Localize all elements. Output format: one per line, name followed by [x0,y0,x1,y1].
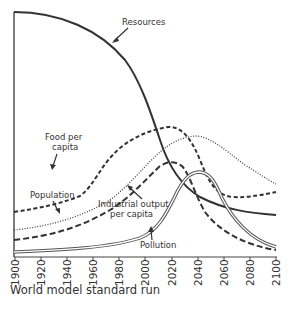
label-food-per-capita-2: capita [52,142,78,152]
tick-label: 2100 [270,259,282,286]
arrowhead-food [50,164,56,170]
tick-label: 2020 [166,259,178,286]
label-industrial-output-2: per capita [110,209,153,219]
label-population: Population [30,190,75,200]
tick-label: 1940 [61,259,73,286]
tick-label: 1980 [113,259,125,286]
tick-label: 1920 [35,259,47,286]
series-resources [14,12,276,215]
label-industrial-output-1: Industrial output [98,199,169,209]
world-model-chart: 1900 1920 1940 1960 1980 2000 2020 2040 … [0,0,291,309]
arrow-food [53,154,57,166]
tick-label: 1900 [9,259,21,286]
tick-label: 2080 [244,259,256,286]
tick-label: 2040 [192,259,204,286]
arrowhead-population [55,208,60,214]
label-pollution: Pollution [140,240,176,250]
x-axis-tick-labels: 1900 1920 1940 1960 1980 2000 2020 2040 … [9,259,282,286]
chart-caption: World model standard run [10,283,160,297]
label-food-per-capita-1: Food per [45,132,83,142]
tick-label: 2060 [218,259,230,286]
tick-label: 2000 [139,259,151,286]
tick-label: 1960 [87,259,99,286]
label-resources: Resources [122,17,166,27]
